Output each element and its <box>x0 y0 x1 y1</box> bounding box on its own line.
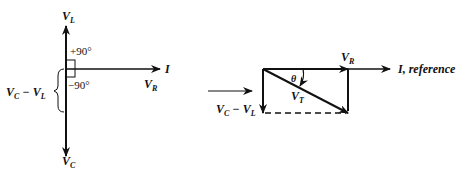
svg-text:+90°: +90° <box>70 45 92 57</box>
svg-text:VC: VC <box>62 154 76 170</box>
brace <box>54 69 64 112</box>
v-t-arrow <box>263 69 348 113</box>
right-phasor-diagram: VR θ VT I, reference VC−VL <box>216 50 456 118</box>
svg-text:−90°: −90° <box>68 79 90 91</box>
svg-text:VR: VR <box>144 77 158 93</box>
svg-text:VT: VT <box>291 89 305 105</box>
svg-text:VC−VL: VC−VL <box>6 85 46 101</box>
svg-text:I, reference: I, reference <box>397 62 456 76</box>
svg-text:VC−VL: VC−VL <box>216 102 256 118</box>
svg-text:I: I <box>164 62 171 76</box>
phasor-diagram: VL VC VR I +90° −90° VC−VL VR θ VT I, re… <box>0 0 456 182</box>
svg-text:VR: VR <box>341 50 355 66</box>
svg-text:VL: VL <box>62 9 75 25</box>
theta-arc <box>300 69 304 86</box>
svg-text:θ: θ <box>291 73 297 84</box>
left-phasor-diagram: VL VC VR I +90° −90° VC−VL <box>6 9 171 170</box>
